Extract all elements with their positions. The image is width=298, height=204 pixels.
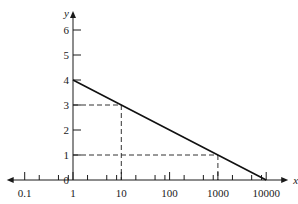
y-axis-title: y bbox=[63, 7, 69, 19]
x-tick-label: 1 bbox=[70, 187, 76, 199]
y-axis-arrow-icon bbox=[70, 11, 76, 18]
y-tick-label: 4 bbox=[64, 74, 70, 86]
x-axis-arrow-left-icon bbox=[7, 177, 14, 183]
log-linear-chart: 0.11101001000100000123456xy bbox=[0, 0, 298, 204]
chart-canvas: 0.11101001000100000123456xy bbox=[0, 0, 298, 204]
dashed-guides bbox=[73, 105, 218, 180]
x-tick-label: 10 bbox=[116, 187, 128, 199]
axes bbox=[7, 11, 289, 183]
y-tick-label: 6 bbox=[64, 24, 70, 36]
data-series bbox=[73, 80, 266, 180]
y-tick-label: 5 bbox=[64, 49, 70, 61]
data-line bbox=[73, 80, 266, 180]
y-tick-label: 3 bbox=[64, 99, 70, 111]
y-tick-label: 2 bbox=[64, 124, 70, 136]
x-tick-label: 0.1 bbox=[18, 187, 32, 199]
tick-labels: 0.11101001000100000123456xy bbox=[18, 7, 298, 199]
x-axis-title: x bbox=[292, 174, 298, 186]
x-tick-label: 100 bbox=[161, 187, 178, 199]
x-axis-arrow-right-icon bbox=[281, 177, 288, 183]
x-tick-label: 1000 bbox=[207, 187, 230, 199]
x-tick-label: 10000 bbox=[252, 187, 280, 199]
y-tick-label: 0 bbox=[64, 174, 70, 186]
y-tick-label: 1 bbox=[64, 149, 70, 161]
